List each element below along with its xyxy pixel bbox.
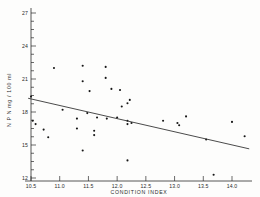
data-point: [185, 115, 187, 117]
data-point: [35, 123, 37, 125]
y-tick-label: 27: [22, 10, 28, 16]
data-point: [32, 120, 34, 122]
x-tick-label: 11.5: [83, 183, 93, 189]
data-points-layer: [30, 65, 246, 176]
data-point: [126, 159, 128, 161]
data-point: [105, 66, 107, 68]
data-point: [105, 77, 107, 79]
regression-fit-line: [28, 98, 249, 149]
data-point: [43, 129, 45, 131]
y-axis-title: N P N mg / 100 ml: [6, 73, 12, 127]
data-point: [110, 88, 112, 90]
x-axis-title: CONDITION INDEX: [111, 189, 168, 195]
data-point: [62, 109, 64, 111]
data-point: [89, 90, 91, 92]
data-point: [126, 123, 128, 125]
data-point: [76, 118, 78, 120]
y-tick-label: 15: [22, 142, 28, 148]
scatter-plot: 121518212427 10.511.011.512.012.513.013.…: [0, 0, 260, 197]
data-point: [178, 124, 180, 126]
data-point: [47, 136, 49, 138]
y-tick-label: 21: [22, 76, 28, 82]
data-point: [82, 80, 84, 82]
data-point: [244, 135, 246, 137]
data-point: [162, 120, 164, 122]
x-tick-label: 10.5: [26, 183, 37, 189]
data-point: [126, 102, 128, 104]
y-axis-tick-labels: 121518212427: [22, 10, 28, 181]
data-point: [93, 134, 95, 136]
chart-figure: 121518212427 10.511.011.512.012.513.013.…: [0, 0, 260, 197]
data-point: [176, 122, 178, 124]
data-point: [231, 121, 233, 123]
data-point: [76, 127, 78, 129]
data-point: [82, 149, 84, 151]
x-axis-major-ticks: [31, 176, 232, 181]
y-tick-label: 24: [22, 43, 28, 49]
data-point: [213, 174, 215, 176]
y-tick-label: 18: [22, 109, 28, 115]
y-axis-minor-ticks: [31, 21, 34, 170]
data-point: [121, 105, 123, 107]
data-point: [53, 67, 55, 69]
data-point: [129, 99, 131, 101]
y-tick-label: 12: [22, 175, 28, 181]
x-tick-label: 11.0: [55, 183, 65, 189]
x-tick-label: 14.0: [227, 183, 238, 189]
data-point: [106, 118, 108, 120]
x-tick-label: 13.0: [169, 183, 180, 189]
data-point: [82, 65, 84, 67]
data-point: [119, 89, 121, 91]
x-tick-label: 13.5: [198, 183, 209, 189]
data-point: [30, 96, 32, 98]
data-point: [96, 116, 98, 118]
data-point: [93, 130, 95, 132]
